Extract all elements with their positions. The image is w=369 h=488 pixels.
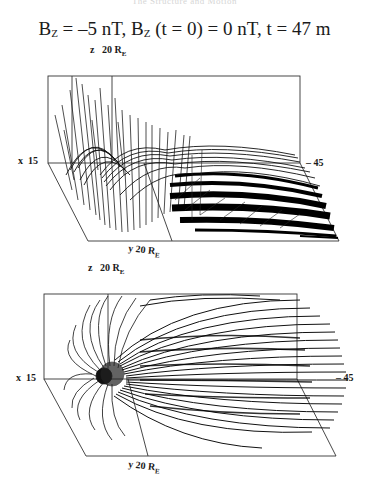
top-tail-bands <box>170 174 338 238</box>
bottom-earth-cluster <box>64 296 150 440</box>
top-vertical-field-lines <box>55 78 190 232</box>
top-field-line-plot <box>0 0 369 260</box>
top-frame <box>48 76 339 241</box>
bottom-tail-dense-overlay <box>140 335 312 414</box>
bottom-tail-field-lines <box>114 295 348 448</box>
bottom-field-line-plot <box>0 270 369 470</box>
